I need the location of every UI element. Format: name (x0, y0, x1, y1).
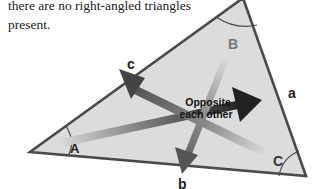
side-label-c: c (127, 56, 135, 72)
vertex-label-b: B (228, 36, 238, 52)
side-label-b: b (178, 176, 187, 189)
triangle-diagram: Opposite each other A B C c a b (0, 0, 312, 189)
side-label-a: a (288, 85, 296, 101)
center-label-line-2: each other (179, 108, 232, 120)
center-label-line-1: Opposite (185, 96, 231, 108)
vertex-label-c: C (273, 153, 283, 169)
vertex-label-a: A (70, 141, 80, 156)
